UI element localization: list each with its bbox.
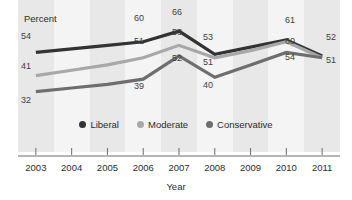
- value-label-moderate-2003: 41: [21, 62, 31, 71]
- x-tick-label-2004: 2004: [56, 163, 88, 173]
- x-tick-label-2005: 2005: [91, 163, 123, 173]
- legend-label: Moderate: [148, 120, 188, 130]
- x-axis-title: Year: [0, 182, 352, 192]
- legend-item-conservative[interactable]: Conservative: [206, 120, 272, 130]
- x-tick-label-2009: 2009: [235, 163, 267, 173]
- value-label-moderate-2007: 58: [172, 28, 182, 37]
- value-label-conservative-2007: 52: [172, 54, 182, 63]
- x-tick-label-2006: 2006: [127, 163, 159, 173]
- value-label-conservative-2008: 40: [203, 81, 213, 90]
- legend-item-moderate[interactable]: Moderate: [137, 120, 188, 130]
- chart-legend: LiberalModerateConservative: [0, 120, 352, 130]
- value-label-conservative-2010: 54: [285, 53, 295, 62]
- y-axis-title: Percent: [24, 14, 57, 24]
- value-label-liberal-2006: 60: [134, 14, 144, 23]
- value-label-liberal-2010: 61: [285, 16, 295, 25]
- legend-label: Liberal: [90, 120, 119, 130]
- value-label-conservative-2003: 32: [21, 96, 31, 105]
- legend-marker-icon: [137, 121, 144, 128]
- x-tick-label-2010: 2010: [270, 163, 302, 173]
- x-tick-label-2008: 2008: [199, 163, 231, 173]
- x-tick-label-2011: 2011: [306, 163, 338, 173]
- value-label-moderate-2006: 51: [134, 37, 144, 46]
- legend-label: Conservative: [217, 120, 272, 130]
- x-tick-label-2003: 2003: [20, 163, 52, 173]
- value-label-conservative-2006: 39: [134, 82, 144, 91]
- value-label-liberal-2003: 54: [21, 32, 31, 41]
- legend-marker-icon: [206, 121, 213, 128]
- legend-item-liberal[interactable]: Liberal: [79, 120, 119, 130]
- value-label-liberal-2008: 53: [203, 33, 213, 42]
- value-label-conservative-2011: 51: [326, 56, 336, 65]
- value-label-moderate-2010: 60: [285, 37, 295, 46]
- value-label-liberal-2007: 66: [172, 8, 182, 17]
- value-label-moderate-2008: 51: [203, 58, 213, 67]
- x-tick-label-2007: 2007: [163, 163, 195, 173]
- value-label-liberal-2011: 52: [326, 33, 336, 42]
- legend-marker-icon: [79, 121, 86, 128]
- line-chart: Percent 54 41 32 60 51 39 66 58 52 53 51…: [0, 0, 352, 200]
